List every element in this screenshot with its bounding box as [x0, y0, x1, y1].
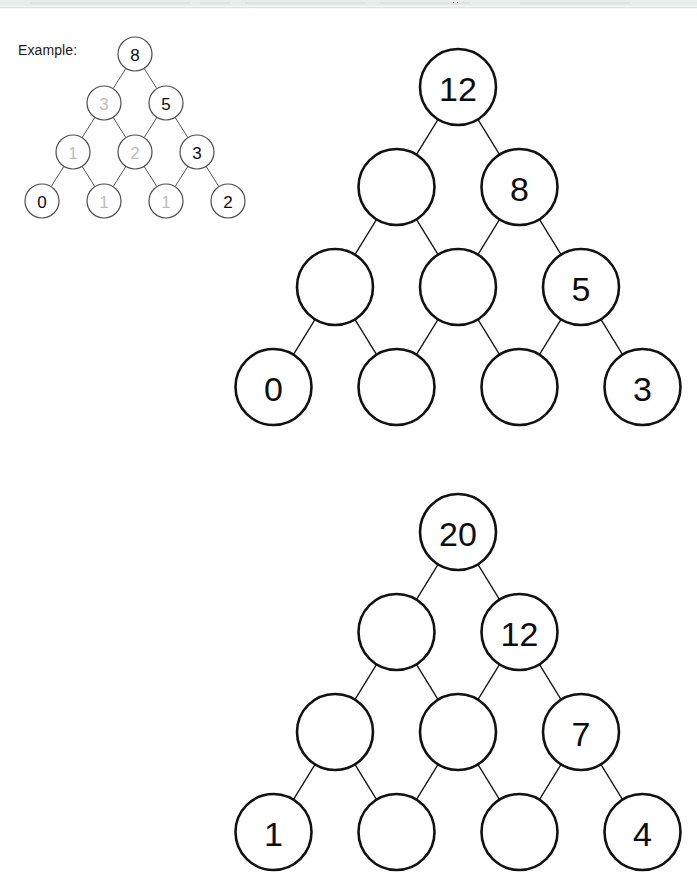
tree-node-value: 8 — [510, 170, 529, 208]
tree-node: 1 — [149, 184, 183, 218]
tree-node[interactable] — [359, 594, 435, 670]
tree-node-value: 3 — [633, 370, 652, 408]
tree-edge — [601, 764, 623, 799]
tree-node[interactable] — [297, 249, 373, 325]
tree-edge — [539, 764, 561, 799]
tree-node: 5 — [149, 86, 183, 120]
tree-node-value: 1 — [161, 193, 170, 212]
tree-edge — [478, 564, 500, 599]
tree-edge — [144, 166, 157, 186]
tree-node[interactable] — [359, 794, 435, 870]
tree-edge — [416, 219, 438, 254]
tree-node-blank-circle[interactable] — [297, 694, 373, 770]
tree-edge — [478, 119, 500, 154]
tree-edge — [539, 319, 561, 354]
tree-node: 12 — [482, 594, 558, 670]
tree-edge — [113, 117, 126, 137]
tree-node-blank-circle[interactable] — [297, 249, 373, 325]
tree-edge — [51, 166, 64, 186]
tree-edge — [478, 664, 500, 699]
tree-node-value: 1 — [68, 144, 77, 163]
chrome-tab-hint-5 — [520, 2, 630, 4]
tree-edge — [416, 664, 438, 699]
tree-edge — [82, 117, 95, 137]
tree-node: 1 — [236, 794, 312, 870]
tree-edge — [539, 664, 561, 699]
tree-node: 20 — [420, 494, 496, 570]
tree-node[interactable] — [297, 694, 373, 770]
tree-node-blank-circle[interactable] — [359, 594, 435, 670]
tree-node: 1 — [87, 184, 121, 218]
tree-node: 1 — [56, 135, 90, 169]
tree-node: 5 — [543, 249, 619, 325]
tree-node-value: 1 — [264, 815, 283, 853]
tree-node-blank-circle[interactable] — [359, 794, 435, 870]
puzzle-tree-1: 128503 — [215, 24, 685, 444]
tree-edge — [416, 119, 438, 154]
tree-node-value: 0 — [264, 370, 283, 408]
tree-node-value: 8 — [130, 46, 139, 65]
tree-edge — [601, 319, 623, 354]
tree-node-value: 4 — [633, 815, 652, 853]
tree-node-blank-circle[interactable] — [482, 349, 558, 425]
tree-edge — [355, 219, 377, 254]
puzzle-tree-2: 2012714 — [215, 469, 685, 877]
tree-node: 3 — [180, 135, 214, 169]
tree-edge — [144, 68, 157, 88]
tree-edge — [416, 564, 438, 599]
tree-edge — [539, 219, 561, 254]
tree-node-value: 7 — [572, 715, 591, 753]
tree-edge — [144, 117, 157, 137]
tree-edge — [416, 319, 438, 354]
tree-node[interactable] — [359, 149, 435, 225]
tree-node: 7 — [543, 694, 619, 770]
tree-node[interactable] — [359, 349, 435, 425]
tree-node[interactable] — [482, 794, 558, 870]
tree-edge — [175, 166, 188, 186]
tree-edge — [293, 319, 315, 354]
chrome-bottom-divider — [0, 7, 697, 8]
tree-node-blank-circle[interactable] — [359, 149, 435, 225]
tree-edge — [355, 764, 377, 799]
tree-node-value: 1 — [99, 193, 108, 212]
tree-node: 0 — [25, 184, 59, 218]
tree-edge — [416, 764, 438, 799]
chrome-tab-hint-2 — [200, 2, 230, 4]
tree-edge — [478, 319, 500, 354]
tree-node-value: 5 — [161, 95, 170, 114]
chrome-menu-icon[interactable]: ·· — [452, 0, 470, 4]
tree-edge — [478, 219, 500, 254]
tree-node: 0 — [236, 349, 312, 425]
tree-edge — [175, 117, 188, 137]
tree-node[interactable] — [482, 349, 558, 425]
browser-chrome-strip: ·· — [0, 0, 697, 9]
tree-node-value: 3 — [99, 95, 108, 114]
tree-node-value: 0 — [37, 193, 46, 212]
tree-node: 8 — [482, 149, 558, 225]
tree-node: 4 — [605, 794, 681, 870]
tree-edge — [82, 166, 95, 186]
tree-node: 2 — [118, 135, 152, 169]
tree-node-value: 2 — [130, 144, 139, 163]
tree-node-blank-circle[interactable] — [482, 794, 558, 870]
tree-node: 12 — [420, 49, 496, 125]
tree-edge — [113, 68, 126, 88]
worksheet-canvas: Example: 8351230112 128503 2012714 — [0, 9, 697, 877]
tree-node-value: 5 — [572, 270, 591, 308]
tree-edge — [355, 664, 377, 699]
tree-node-blank-circle[interactable] — [359, 349, 435, 425]
tree-edge — [113, 166, 126, 186]
tree-node: 8 — [118, 37, 152, 71]
tree-node-blank-circle[interactable] — [420, 249, 496, 325]
tree-node[interactable] — [420, 249, 496, 325]
tree-node-value: 12 — [439, 70, 477, 108]
chrome-tab-hint-3 — [245, 2, 365, 4]
tree-node-value: 20 — [439, 515, 477, 553]
tree-node-blank-circle[interactable] — [420, 694, 496, 770]
tree-node[interactable] — [420, 694, 496, 770]
tree-edge — [478, 764, 500, 799]
tree-node: 3 — [605, 349, 681, 425]
tree-node-value: 3 — [192, 144, 201, 163]
chrome-tab-hint-1 — [30, 2, 190, 4]
tree-edge — [355, 319, 377, 354]
